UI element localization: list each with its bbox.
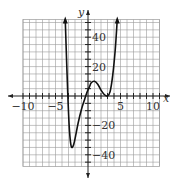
arrow-up-icon: [115, 17, 120, 24]
x-tick-label: 10: [146, 100, 160, 113]
x-tick-label: −10: [11, 100, 34, 113]
y-axis-label: y: [77, 6, 85, 19]
arrow-up-icon: [63, 17, 68, 24]
x-tick-label: 5: [117, 100, 124, 113]
polynomial-graph: −10−55104020−20−40 x y: [0, 0, 176, 182]
x-tick-label: −5: [47, 100, 63, 113]
y-tick-label: 20: [92, 61, 106, 74]
y-tick-label: 40: [92, 31, 106, 44]
y-tick-label: −40: [92, 149, 115, 162]
x-axis-label: x: [163, 92, 170, 105]
y-tick-label: −20: [92, 119, 115, 132]
axes: [8, 10, 170, 178]
